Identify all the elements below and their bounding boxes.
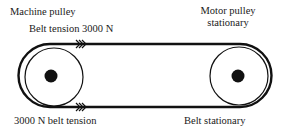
motor-pulley-stationary-label: stationary (186, 18, 270, 29)
machine-pulley (25, 48, 83, 106)
motor-pulley (210, 47, 268, 105)
motor-pulley-hub-icon (232, 70, 245, 83)
machine-pulley-hub-icon (45, 70, 58, 83)
bottom-belt-tension-label: 3000 N belt tension (14, 116, 97, 127)
top-belt-tension-label: Belt tension 3000 N (29, 24, 113, 35)
motor-pulley-label: Motor pulley (186, 6, 270, 17)
belt-stationary-label: Belt stationary (184, 116, 246, 127)
belt-pulley-diagram: Machine pulley Belt tension 3000 N Motor… (0, 0, 281, 136)
machine-pulley-label: Machine pulley (10, 7, 76, 18)
